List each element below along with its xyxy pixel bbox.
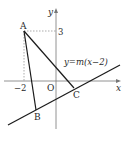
y-axis-label: y (47, 7, 54, 17)
point-C-label: C (73, 90, 80, 100)
y-tick-3: 3 (58, 27, 63, 37)
line-y-equals-m-x-minus-2 (8, 65, 120, 125)
point-A-label: A (19, 21, 27, 31)
origin-label: O (47, 83, 54, 93)
line-equation-label: y=m(x−2) (63, 57, 108, 67)
point-B-label: B (34, 112, 41, 122)
x-tick-minus-2: −2 (14, 83, 27, 93)
x-axis-label: x (116, 83, 121, 93)
coordinate-diagram: y x A B C O 3 −2 y=m(x−2) (0, 0, 130, 143)
y-axis-arrow-icon (54, 8, 58, 13)
